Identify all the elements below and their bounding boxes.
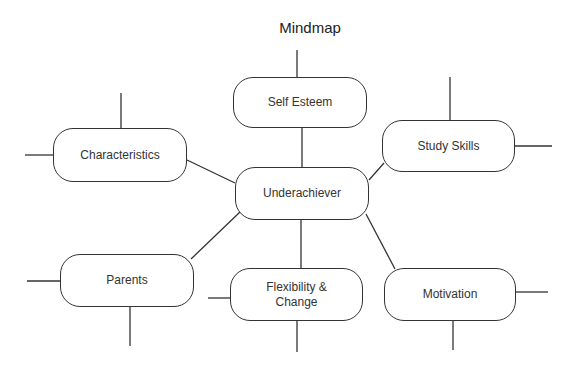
node-label: Study Skills <box>417 139 479 154</box>
edge-center-study-skills <box>369 163 384 180</box>
node-characteristics: Characteristics <box>53 128 187 182</box>
node-flexibility-change: Flexibility & Change <box>230 268 363 321</box>
node-label: Flexibility & Change <box>261 280 332 310</box>
node-study-skills: Study Skills <box>382 120 515 172</box>
edge-center-characteristics <box>187 160 235 183</box>
node-label: Parents <box>106 273 147 288</box>
node-label: Motivation <box>423 287 478 302</box>
node-label: Underachiever <box>263 186 341 201</box>
edge-center-motivation <box>366 214 395 269</box>
node-label: Self Esteem <box>268 95 333 110</box>
diagram-title: Mindmap <box>260 19 360 36</box>
node-parents: Parents <box>60 254 194 307</box>
node-label: Characteristics <box>80 148 159 163</box>
node-underachiever-center: Underachiever <box>235 167 369 220</box>
node-motivation: Motivation <box>384 268 516 321</box>
edge-center-parents <box>191 212 240 259</box>
node-self-esteem: Self Esteem <box>233 77 367 128</box>
